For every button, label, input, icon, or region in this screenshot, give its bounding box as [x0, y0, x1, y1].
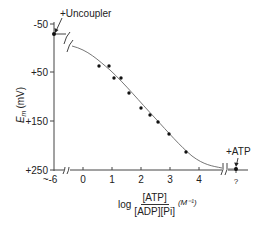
x-tick-label: 1	[109, 174, 115, 185]
x-tick-label: 2	[138, 174, 144, 185]
atp-point	[234, 167, 238, 171]
x-tick-label: 4	[196, 174, 202, 185]
curve-break-marks	[64, 32, 73, 52]
y-label-unit: (mV)	[15, 87, 26, 109]
y-axis-label: Em(mV)	[15, 87, 27, 123]
atp-arrowhead	[234, 163, 238, 168]
x-tick-label: ~-6	[43, 174, 58, 185]
uncoupler-arrow	[56, 18, 62, 31]
fit-curve	[72, 46, 222, 168]
x-label-fraction: [ATP] [ADP][Pi]	[134, 192, 175, 217]
x-tick-label: 0	[80, 174, 86, 185]
svg-text:Em(mV): Em(mV)	[15, 87, 27, 123]
x-axis-break-right	[221, 163, 227, 175]
uncoupler-label: +Uncoupler	[60, 8, 112, 19]
y-ticks	[50, 24, 54, 170]
y-tick-label: +150	[25, 116, 48, 127]
y-tick-label: +50	[31, 67, 48, 78]
y-label-sub: m	[20, 110, 27, 116]
atp-label: +ATP	[226, 146, 251, 157]
x-label-numerator: [ATP]	[141, 192, 169, 205]
data-points	[97, 64, 187, 153]
y-tick-label: -50	[34, 19, 49, 30]
x-label-denominator: [ADP][Pi]	[134, 205, 175, 217]
x-label-prefix: log	[118, 199, 131, 210]
x-axis-label: log [ATP] [ADP][Pi] (M⁻¹)	[118, 192, 197, 217]
x-tick-label: ?	[234, 177, 239, 186]
x-label-unit: (M⁻¹)	[178, 198, 197, 207]
x-tick-label: 3	[167, 174, 173, 185]
